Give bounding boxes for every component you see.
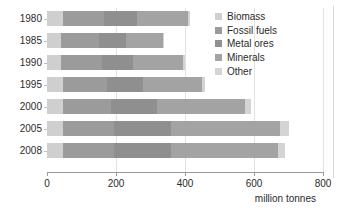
bar-segment-1995-minerals[interactable] — [143, 77, 202, 92]
bar-segment-1980-metal-ores[interactable] — [104, 11, 137, 26]
bar-segment-1995-metal-ores[interactable] — [107, 77, 143, 92]
x-tick-label-800: 800 — [303, 178, 340, 190]
bar-segment-2005-metal-ores[interactable] — [114, 121, 171, 136]
bar-segment-1980-fossil-fuels[interactable] — [63, 11, 104, 26]
bar-segment-1995-biomass[interactable] — [47, 77, 63, 92]
legend-item-biomass[interactable]: Biomass — [215, 10, 277, 24]
chart-legend: BiomassFossil fuelsMetal oresMineralsOth… — [215, 10, 277, 78]
x-tick-label-400: 400 — [165, 178, 205, 190]
bar-segment-2000-fossil-fuels[interactable] — [63, 99, 111, 114]
bar-segment-1990-biomass[interactable] — [47, 55, 61, 70]
bar-segment-1985-fossil-fuels[interactable] — [61, 33, 98, 48]
legend-swatch-icon — [215, 40, 222, 47]
bar-segment-2008-biomass[interactable] — [47, 143, 63, 158]
bar-segment-1980-other[interactable] — [188, 11, 190, 26]
bar-segment-1990-minerals[interactable] — [133, 55, 183, 70]
legend-item-minerals[interactable]: Minerals — [215, 51, 277, 65]
bar-segment-2005-other[interactable] — [280, 121, 289, 136]
bar-segment-2005-fossil-fuels[interactable] — [63, 121, 115, 136]
bar-segment-1995-other[interactable] — [202, 77, 205, 92]
legend-label: Other — [227, 66, 252, 77]
bar-segment-2008-minerals[interactable] — [171, 143, 278, 158]
bar-segment-1985-metal-ores[interactable] — [99, 33, 127, 48]
x-axis-title: million tonnes — [0, 193, 316, 204]
bar-segment-2008-other[interactable] — [278, 143, 285, 158]
y-axis-label-1980: 1980 — [2, 13, 42, 24]
chart-container: 0200400600800198019851990199520002005200… — [0, 0, 340, 212]
bar-segment-2000-metal-ores[interactable] — [111, 99, 158, 114]
bar-segment-1990-metal-ores[interactable] — [102, 55, 133, 70]
bar-segment-1980-minerals[interactable] — [137, 11, 189, 26]
legend-label: Fossil fuels — [227, 25, 277, 36]
x-tick-label-200: 200 — [96, 178, 136, 190]
legend-item-other[interactable]: Other — [215, 64, 277, 78]
x-tick-mark-600 — [254, 172, 255, 176]
legend-item-metal-ores[interactable]: Metal ores — [215, 37, 277, 51]
bar-row-1990[interactable] — [47, 55, 323, 70]
y-axis-label-2005: 2005 — [2, 123, 42, 134]
x-tick-mark-200 — [116, 172, 117, 176]
bar-segment-1985-biomass[interactable] — [47, 33, 61, 48]
bar-segment-2008-metal-ores[interactable] — [114, 143, 171, 158]
gridline-800 — [323, 8, 324, 172]
bar-segment-2000-minerals[interactable] — [157, 99, 245, 114]
legend-swatch-icon — [215, 27, 222, 34]
y-axis-label-1985: 1985 — [2, 35, 42, 46]
legend-swatch-icon — [215, 68, 222, 75]
legend-item-fossil-fuels[interactable]: Fossil fuels — [215, 24, 277, 38]
x-tick-label-600: 600 — [234, 178, 274, 190]
bar-segment-1990-fossil-fuels[interactable] — [61, 55, 102, 70]
y-axis-label-2008: 2008 — [2, 145, 42, 156]
bar-segment-2008-fossil-fuels[interactable] — [63, 143, 115, 158]
plot-right-border — [333, 6, 334, 178]
legend-label: Metal ores — [227, 38, 274, 49]
x-tick-mark-400 — [185, 172, 186, 176]
bar-row-2000[interactable] — [47, 99, 323, 114]
bar-segment-2000-biomass[interactable] — [47, 99, 63, 114]
bar-segment-2005-biomass[interactable] — [47, 121, 63, 136]
x-tick-mark-0 — [47, 172, 48, 176]
y-axis-label-1990: 1990 — [2, 57, 42, 68]
bar-segment-1980-biomass[interactable] — [47, 11, 63, 26]
bar-row-2008[interactable] — [47, 143, 323, 158]
bar-row-1985[interactable] — [47, 33, 323, 48]
bar-segment-2000-other[interactable] — [245, 99, 250, 114]
bar-segment-1995-fossil-fuels[interactable] — [63, 77, 107, 92]
x-tick-mark-800 — [323, 172, 324, 176]
bar-row-2005[interactable] — [47, 121, 323, 136]
legend-swatch-icon — [215, 13, 222, 20]
legend-swatch-icon — [215, 54, 222, 61]
y-axis-label-2000: 2000 — [2, 101, 42, 112]
legend-label: Minerals — [227, 52, 265, 63]
y-axis-label-1995: 1995 — [2, 79, 42, 90]
bar-row-1980[interactable] — [47, 11, 323, 26]
bar-segment-1985-minerals[interactable] — [126, 33, 162, 48]
bar-segment-2005-minerals[interactable] — [171, 121, 280, 136]
bar-segment-1990-other[interactable] — [183, 55, 185, 70]
x-tick-label-0: 0 — [27, 178, 67, 190]
bar-segment-1985-other[interactable] — [163, 33, 165, 48]
legend-label: Biomass — [227, 11, 265, 22]
bar-row-1995[interactable] — [47, 77, 323, 92]
